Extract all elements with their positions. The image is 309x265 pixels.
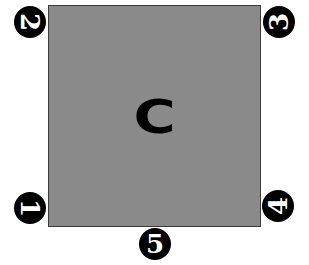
marker-5: 5 — [139, 228, 171, 260]
center-label: C — [23, 94, 287, 140]
marker-4: 4 — [262, 190, 294, 222]
gray-square: C — [48, 5, 261, 227]
marker-1: 1 — [14, 192, 46, 224]
marker-3: 3 — [263, 6, 295, 38]
marker-2: 2 — [14, 6, 46, 38]
